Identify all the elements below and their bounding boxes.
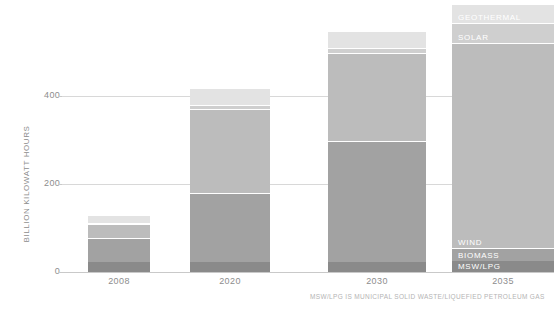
bar-2020 bbox=[190, 88, 270, 272]
plot-area: MSW/LPGBIOMASSWINDSOLARGEOTHERMAL bbox=[62, 0, 554, 272]
bar-segment-2035-biomass: BIOMASS bbox=[452, 248, 554, 261]
bar-segment-2035-geothermal: GEOTHERMAL bbox=[452, 4, 554, 24]
bar-segment-2035-msw-lpg: MSW/LPG bbox=[452, 261, 554, 272]
y-tick-label-400: 400 bbox=[26, 90, 60, 100]
x-axis-label-2035: 2035 bbox=[452, 276, 554, 286]
bar-segment-2008-biomass bbox=[88, 238, 150, 262]
segment-label-msw-lpg: MSW/LPG bbox=[458, 262, 501, 271]
segment-label-geothermal: GEOTHERMAL bbox=[458, 13, 521, 22]
bar-segment-2030-msw-lpg bbox=[328, 262, 426, 272]
bar-segment-2030-wind bbox=[328, 53, 426, 141]
bar-2035: MSW/LPGBIOMASSWINDSOLARGEOTHERMAL bbox=[452, 4, 554, 272]
bar-segment-2008-msw-lpg bbox=[88, 262, 150, 272]
bar-segment-2008-wind bbox=[88, 224, 150, 238]
bar-segment-2035-solar: SOLAR bbox=[452, 23, 554, 43]
bar-segment-2035-wind: WIND bbox=[452, 43, 554, 248]
bar-segment-2020-geothermal bbox=[190, 88, 270, 105]
bar-segment-2030-solar bbox=[328, 48, 426, 53]
bar-segment-2020-msw-lpg bbox=[190, 262, 270, 272]
bar-segment-2020-solar bbox=[190, 105, 270, 109]
stacked-bar-chart: BILLION KILOWATT HOURS 0200400 MSW/LPGBI… bbox=[0, 0, 554, 316]
x-axis-label-2030: 2030 bbox=[328, 276, 426, 286]
bar-2030 bbox=[328, 31, 426, 272]
bar-segment-2008-geothermal bbox=[88, 215, 150, 222]
segment-label-biomass: BIOMASS bbox=[458, 251, 499, 260]
segment-label-solar: SOLAR bbox=[458, 33, 489, 42]
segment-label-wind: WIND bbox=[458, 238, 482, 247]
bar-segment-2030-geothermal bbox=[328, 31, 426, 48]
y-axis-title: BILLION KILOWATT HOURS bbox=[22, 0, 31, 94]
bar-2008 bbox=[88, 215, 150, 272]
bar-segment-2008-solar bbox=[88, 223, 150, 224]
gridline-0 bbox=[62, 272, 554, 273]
bar-segment-2020-wind bbox=[190, 109, 270, 193]
bar-segment-2020-biomass bbox=[190, 193, 270, 263]
x-axis-label-2020: 2020 bbox=[190, 276, 270, 286]
y-tick-label-0: 0 bbox=[26, 266, 60, 276]
x-axis-label-2008: 2008 bbox=[88, 276, 150, 286]
bar-segment-2030-biomass bbox=[328, 141, 426, 262]
y-tick-label-200: 200 bbox=[26, 178, 60, 188]
footnote: MSW/LPG IS MUNICIPAL SOLID WASTE/LIQUEFI… bbox=[310, 293, 545, 300]
